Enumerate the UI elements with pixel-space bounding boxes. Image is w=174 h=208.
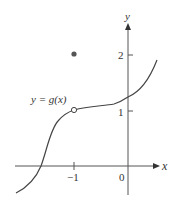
function-graph: x y −1 0 1 2 y = g(x) — [0, 0, 174, 208]
function-label: y = g(x) — [30, 93, 67, 106]
open-circle-marker — [71, 107, 76, 112]
y-axis-label: y — [124, 10, 130, 22]
y-tick-label-2: 2 — [118, 49, 124, 61]
curve-g — [16, 60, 157, 193]
x-tick-label-neg1: −1 — [67, 171, 79, 183]
x-axis-arrow-icon — [153, 163, 160, 169]
y-tick-label-1: 1 — [118, 106, 124, 118]
x-tick-label-0: 0 — [119, 171, 125, 183]
filled-dot-marker — [71, 51, 76, 56]
x-axis-label: x — [161, 159, 168, 173]
y-axis-arrow-icon — [125, 23, 131, 30]
